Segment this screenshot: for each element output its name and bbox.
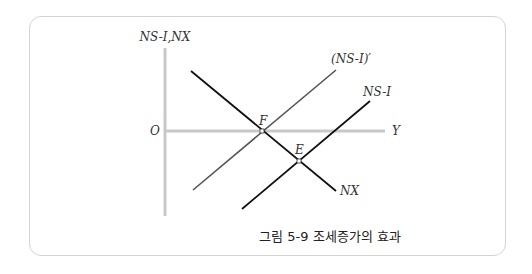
nx-label: NX <box>339 184 360 198</box>
diagram: NS-I,NX Y O (NS-I)′ NS-I NX F E 그림 5-9 조… <box>0 0 532 274</box>
point-f-label: F <box>258 114 268 128</box>
y-axis-label: NS-I,NX <box>139 30 191 44</box>
origin-label: O <box>150 124 160 138</box>
point-e-marker <box>297 159 301 163</box>
ns-i-prime-label: (NS-I)′ <box>331 52 371 66</box>
point-f-marker <box>260 129 264 133</box>
ns-i-label: NS-I <box>362 85 391 99</box>
figure-caption: 그림 5-9 조세증가의 효과 <box>259 229 401 244</box>
x-axis-label: Y <box>392 124 401 138</box>
point-e-label: E <box>294 143 304 157</box>
